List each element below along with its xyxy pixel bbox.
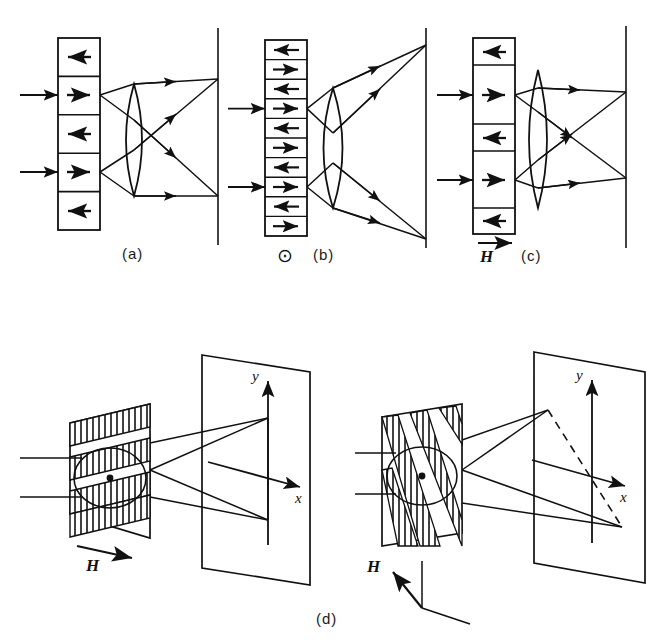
panel-a-sample [58, 38, 100, 230]
panel-a-lens [126, 84, 142, 196]
panel-a-rays [100, 79, 218, 196]
panel-d-left-screen [202, 355, 310, 585]
panel-d-left [20, 355, 310, 585]
field-label-d-right: H [367, 557, 380, 577]
field-out-of-page-icon: ⊙ [277, 246, 293, 265]
panel-c [437, 26, 626, 248]
axis-label-x-right: x [620, 489, 627, 506]
panel-d-right-screen [532, 352, 645, 583]
axis-label-x-left: x [295, 490, 302, 507]
axis-label-y-left: y [252, 368, 259, 385]
panel-d-right-field-arrow [393, 561, 470, 624]
panel-b-lens [324, 88, 343, 208]
caption-d: (d) [316, 610, 337, 627]
figure-svg [0, 0, 671, 643]
panel-b [228, 28, 426, 248]
panel-a [20, 28, 218, 245]
panel-d-left-sample [70, 404, 150, 538]
panel-d-right [355, 352, 645, 624]
panel-c-sample [473, 38, 515, 234]
panel-d-right-rays [462, 410, 622, 527]
field-label-d-left: H [86, 556, 99, 576]
field-label-c: H [480, 247, 493, 267]
figure-magnetic-domain-diffraction: (a) (b) ⊙ (c) H H H y x y x (d) [0, 0, 671, 643]
caption-b: (b) [313, 246, 334, 263]
panel-c-incident-rays [437, 95, 473, 180]
panel-b-incident-rays [228, 109, 265, 187]
panel-a-incident-rays [20, 95, 58, 172]
panel-b-sample [265, 40, 307, 236]
panel-d-right-sample [382, 404, 462, 546]
panel-d-left-rays [150, 418, 268, 520]
caption-c: (c) [521, 247, 542, 264]
caption-a: (a) [122, 245, 143, 262]
axis-label-y-right: y [576, 367, 583, 384]
